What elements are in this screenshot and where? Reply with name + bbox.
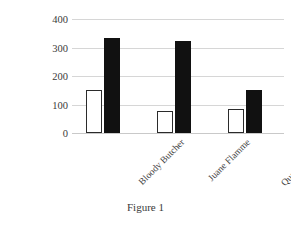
y-tick-label-100: 100 bbox=[38, 99, 68, 110]
bar-series-container bbox=[72, 19, 284, 133]
y-tick-label-200: 200 bbox=[38, 71, 68, 82]
figure-container: Sodium concentration (mmol kg-1) 0100200… bbox=[0, 0, 291, 225]
x-axis-category-labels: Bloody ButcherJuane FlammeQuarter Centur… bbox=[72, 133, 284, 195]
plot-area bbox=[72, 19, 284, 133]
bar-group bbox=[213, 19, 284, 133]
bar-solid[interactable] bbox=[175, 41, 191, 133]
bar-open[interactable] bbox=[228, 109, 244, 133]
bar-solid[interactable] bbox=[104, 38, 120, 133]
y-tick-label-0: 0 bbox=[38, 128, 68, 139]
bar-group bbox=[72, 19, 143, 133]
y-tick-label-400: 400 bbox=[38, 14, 68, 25]
y-tick-label-300: 300 bbox=[38, 42, 68, 53]
bar-solid[interactable] bbox=[246, 90, 262, 133]
bar-open[interactable] bbox=[157, 111, 173, 133]
bar-open[interactable] bbox=[86, 90, 102, 133]
bar-group bbox=[143, 19, 214, 133]
y-axis-tick-labels: 0100200300400 bbox=[38, 0, 68, 145]
x-axis-label-3: Quarter Century bbox=[279, 137, 291, 188]
x-axis-label-1: Bloody Butcher bbox=[137, 137, 187, 187]
figure-caption: Figure 1 bbox=[0, 201, 291, 213]
x-axis-label-2: Juane Flamme bbox=[206, 137, 252, 183]
